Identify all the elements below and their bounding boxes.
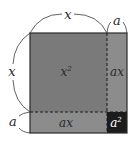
label-left-a: a [9, 114, 17, 129]
label-ax-right: ax [110, 65, 124, 79]
label-top-x: x [64, 7, 72, 22]
brace-left-a [19, 112, 30, 133]
label-ax-bottom: ax [59, 116, 73, 130]
area-model-diagram: x a x a x2 ax ax a2 [0, 0, 140, 142]
label-left-x: x [8, 64, 16, 79]
label-top-a: a [113, 13, 121, 28]
